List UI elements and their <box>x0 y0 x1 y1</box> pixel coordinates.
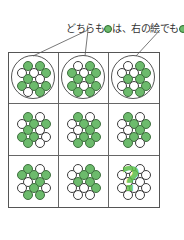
grid-cell-2-2: ? <box>109 156 159 207</box>
grid-cell-1-2 <box>109 104 159 155</box>
grid-cell-0-0 <box>9 53 59 104</box>
question-mark: ? <box>121 162 141 196</box>
green-circle <box>23 190 33 200</box>
white-circle <box>23 87 33 97</box>
green-circle <box>35 190 45 200</box>
white-circle <box>85 190 95 200</box>
white-circle <box>135 138 145 148</box>
green-circle <box>123 138 133 148</box>
puzzle-grid: ? <box>8 52 160 208</box>
green-circle <box>73 87 83 97</box>
green-circle <box>123 87 133 97</box>
green-circle <box>23 138 33 148</box>
white-circle <box>35 138 45 148</box>
grid-cell-1-0 <box>9 104 59 155</box>
grid-cell-0-2 <box>109 53 159 104</box>
grid-cell-0-1 <box>59 53 109 104</box>
green-circle <box>35 87 45 97</box>
white-circle <box>73 190 83 200</box>
green-circle <box>73 138 83 148</box>
grid-cell-1-1 <box>59 104 109 155</box>
grid-cell-2-1 <box>59 156 109 207</box>
green-circle <box>135 87 145 97</box>
green-circle <box>85 87 95 97</box>
green-circle <box>85 138 95 148</box>
grid-cell-2-0 <box>9 156 59 207</box>
